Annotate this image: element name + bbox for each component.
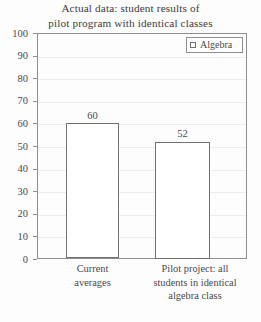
bar-pilot-project[interactable] [155,142,210,259]
x-label-line-3: algebra class [132,289,258,303]
gridline-70 [38,102,246,103]
x-label-line-1: Pilot project: all [132,262,258,276]
y-axis-label-90: 90 [0,51,28,62]
y-axis-label-50: 50 [0,142,28,153]
y-axis-label-30: 30 [0,187,28,198]
legend-entry-label: Algebra [200,40,232,50]
x-label-line-1: Current [50,262,135,276]
bar-current-averages[interactable] [66,123,119,258]
chart-legend[interactable]: Algebra [186,37,243,53]
y-axis-label-100: 100 [0,29,28,40]
x-label-line-2: students in identical [132,276,258,290]
bar-value-pilot-project: 52 [155,128,210,139]
y-axis-label-20: 20 [0,209,28,220]
y-axis-label-80: 80 [0,74,28,85]
y-axis-label-40: 40 [0,164,28,175]
gridline-80 [38,79,246,80]
chart-title: Actual data: student results of pilot pr… [0,1,261,31]
x-axis-label-current-averages: Current averages [50,262,135,289]
x-label-line-2: averages [50,276,135,290]
y-axis-label-70: 70 [0,96,28,107]
bar-value-current-averages: 60 [66,110,119,121]
x-axis-label-pilot-project: Pilot project: all students in identical… [132,262,258,303]
y-axis-label-60: 60 [0,119,28,130]
gridline-90 [38,57,246,58]
y-axis-label-10: 10 [0,232,28,243]
y-axis-label-0: 0 [0,255,28,266]
chart-title-line-1: Actual data: student results of [0,1,261,16]
chart-title-line-2: pilot program with identical classes [0,16,261,31]
legend-swatch-icon [190,42,196,48]
